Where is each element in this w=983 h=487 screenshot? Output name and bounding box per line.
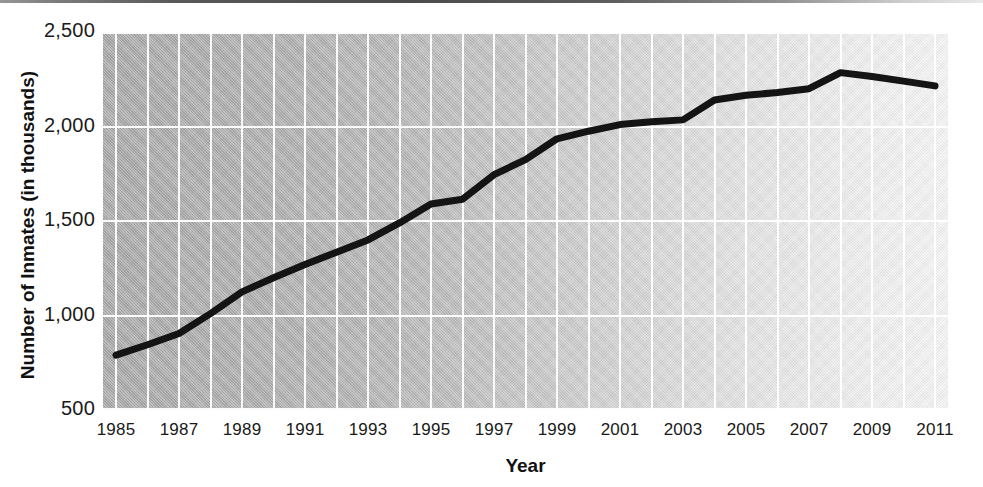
y-axis-tick-labels: 5001,0001,5002,0002,500: [0, 0, 95, 487]
x-axis-tick-label: 1999: [522, 420, 592, 440]
inmates-line-series: [116, 73, 935, 356]
x-axis-title: Year: [103, 455, 948, 477]
x-axis-tick-label: 1987: [144, 420, 214, 440]
x-axis-tick-label: 1997: [459, 420, 529, 440]
x-axis-tick-label: 1985: [81, 420, 151, 440]
y-axis-tick-label: 2,500: [3, 19, 95, 42]
x-axis-tick-label: 1991: [270, 420, 340, 440]
x-axis-tick-label: 2009: [837, 420, 907, 440]
y-axis-tick-label: 500: [3, 397, 95, 420]
x-axis-tick-label: 2011: [900, 420, 970, 440]
x-axis-tick-label: 2005: [711, 420, 781, 440]
x-axis-tick-label: 1993: [333, 420, 403, 440]
chart-figure: Number of Inmates (in thousands) 5001,00…: [0, 0, 983, 487]
data-line-chart: [103, 32, 948, 410]
x-axis-tick-label: 2003: [648, 420, 718, 440]
scan-edge-artifact: [0, 0, 983, 3]
x-axis-tick-label: 2001: [585, 420, 655, 440]
y-axis-tick-label: 2,000: [3, 114, 95, 137]
plot-area: [103, 32, 948, 410]
y-axis-tick-label: 1,000: [3, 303, 95, 326]
x-axis-tick-label: 2007: [774, 420, 844, 440]
x-axis-tick-label: 1995: [396, 420, 466, 440]
x-axis-tick-labels: 1985198719891991199319951997199920012003…: [0, 420, 983, 446]
x-axis-tick-label: 1989: [207, 420, 277, 440]
y-axis-tick-label: 1,500: [3, 208, 95, 231]
